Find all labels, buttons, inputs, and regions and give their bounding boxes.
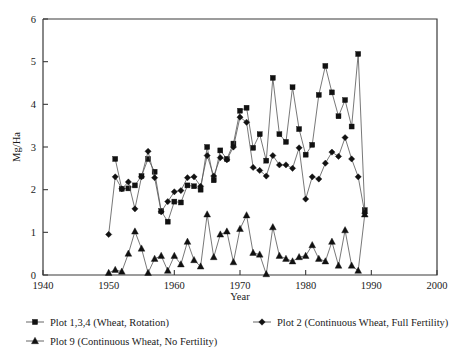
legend-item-2[interactable]: Plot 2 (Continuous Wheat, Full Fertility… (253, 317, 449, 329)
data-point (263, 271, 270, 277)
data-point (323, 63, 328, 68)
chart-legend: Plot 1,3,4 (Wheat, Rotation)Plot 2 (Cont… (26, 317, 449, 348)
data-point (310, 142, 315, 147)
data-point (218, 148, 223, 153)
data-point (276, 162, 282, 168)
y-tick-label: 5 (31, 56, 36, 67)
data-point (106, 231, 112, 237)
legend-item-3[interactable]: Plot 9 (Continuous Wheat, No Fertility) (26, 336, 218, 348)
data-point (132, 228, 139, 234)
data-point (192, 184, 197, 189)
y-tick-label: 6 (31, 14, 36, 25)
x-tick-label: 1960 (164, 280, 185, 291)
series-3 (105, 211, 368, 277)
data-point (289, 165, 295, 171)
series-polyline (115, 54, 365, 222)
data-point (165, 219, 170, 224)
legend-label: Plot 1,3,4 (Wheat, Rotation) (50, 317, 169, 329)
data-point (210, 253, 217, 259)
data-point (343, 98, 348, 103)
x-axis-ticks (43, 270, 437, 275)
data-point (277, 132, 282, 137)
data-point (336, 114, 341, 119)
data-point (355, 267, 362, 273)
data-point (270, 75, 275, 80)
data-point (302, 252, 309, 258)
data-point (172, 199, 177, 204)
data-point (165, 198, 171, 204)
y-axis-ticks (43, 19, 48, 275)
data-point (105, 269, 112, 275)
data-series-layer (105, 51, 368, 276)
data-point (303, 152, 308, 157)
data-point (342, 227, 349, 233)
x-tick-label: 1970 (230, 280, 251, 291)
chart-figure: 0123456 1940195019601970198019902000 Mg/… (0, 0, 466, 355)
data-point (257, 132, 262, 137)
data-point (217, 231, 224, 237)
legend-marker-icon (259, 319, 266, 326)
data-point (171, 189, 177, 195)
chart-canvas: 0123456 1940195019601970198019902000 Mg/… (0, 0, 466, 355)
x-tick-label: 1990 (361, 280, 382, 291)
data-point (238, 108, 243, 113)
legend-label: Plot 2 (Continuous Wheat, Full Fertility… (277, 317, 449, 329)
data-point (329, 90, 334, 95)
data-point (283, 139, 288, 144)
data-point (191, 256, 198, 262)
data-point (329, 238, 336, 244)
data-point (309, 174, 315, 180)
data-point (204, 211, 211, 217)
data-point (251, 145, 256, 150)
data-point (223, 228, 230, 234)
data-point (237, 225, 244, 231)
series-polyline (109, 214, 365, 274)
x-tick-label: 1940 (33, 280, 54, 291)
data-point (356, 51, 361, 56)
data-point (243, 212, 250, 218)
data-point (355, 174, 361, 180)
data-point (315, 255, 322, 261)
data-point (152, 175, 158, 181)
x-tick-label: 2000 (427, 280, 448, 291)
data-point (171, 252, 178, 258)
y-tick-label: 3 (31, 142, 36, 153)
data-point (276, 252, 283, 258)
legend-label: Plot 9 (Continuous Wheat, No Fertility) (50, 336, 218, 348)
data-point (296, 145, 302, 151)
y-tick-label: 2 (31, 184, 36, 195)
legend-marker-icon (31, 337, 38, 343)
data-point (269, 224, 276, 230)
data-point (125, 250, 132, 256)
y-axis-tick-labels: 0123456 (31, 14, 37, 281)
data-point (329, 149, 335, 155)
data-point (342, 134, 348, 140)
data-point (297, 127, 302, 132)
data-point (244, 105, 249, 110)
y-tick-label: 4 (31, 99, 37, 110)
y-tick-label: 1 (31, 227, 36, 238)
data-point (113, 156, 118, 161)
data-point (145, 269, 152, 275)
data-point (264, 158, 269, 163)
legend-item-1[interactable]: Plot 1,3,4 (Wheat, Rotation) (26, 317, 169, 329)
data-point (191, 174, 197, 180)
data-point (316, 176, 322, 182)
data-point (185, 183, 190, 188)
data-point (230, 259, 237, 265)
data-point (138, 245, 145, 251)
data-point (151, 255, 158, 261)
x-axis-title: Year (230, 291, 250, 302)
data-point (250, 249, 257, 255)
x-tick-label: 1950 (98, 280, 119, 291)
data-point (205, 145, 210, 150)
data-point (303, 196, 309, 202)
legend-marker-icon (32, 319, 37, 324)
data-point (112, 174, 118, 180)
data-point (283, 255, 290, 261)
x-axis-tick-labels: 1940195019601970198019902000 (33, 280, 448, 291)
data-point (270, 152, 276, 158)
series-2 (106, 114, 368, 238)
data-point (335, 262, 342, 268)
data-point (178, 200, 183, 205)
